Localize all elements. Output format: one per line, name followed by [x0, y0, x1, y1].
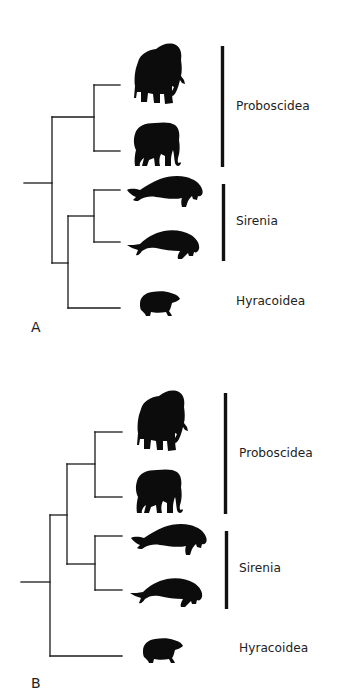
- tree-a: [24, 85, 120, 308]
- clade-label-sirenia: Sirenia: [236, 214, 278, 228]
- elephant-silhouette-icon: [134, 122, 181, 166]
- clade-label-proboscidea: Proboscidea: [236, 99, 310, 113]
- dugong-silhouette-icon: [127, 230, 199, 259]
- elephant-silhouette-icon: [136, 469, 183, 513]
- taxa-b: [130, 391, 207, 663]
- tree-b: [21, 432, 122, 656]
- taxa-a: [127, 44, 203, 316]
- panel-label-a: A: [31, 319, 41, 335]
- mammoth-silhouette-icon: [134, 44, 185, 104]
- hyrax-silhouette-icon: [140, 291, 180, 316]
- clade-label-sirenia: Sirenia: [239, 561, 281, 575]
- panel-a: Proboscidea Sirenia Hyracoidea A: [24, 44, 310, 335]
- clade-label-proboscidea: Proboscidea: [239, 446, 313, 460]
- panel-b: Proboscidea Sirenia Hyracoidea B: [21, 391, 313, 691]
- panel-label-b: B: [31, 675, 41, 691]
- manatee-silhouette-icon: [127, 176, 203, 207]
- clade-label-hyracoidea: Hyracoidea: [236, 294, 305, 308]
- phylogeny-figure: Proboscidea Sirenia Hyracoidea A: [0, 0, 341, 693]
- mammoth-silhouette-icon: [137, 391, 188, 451]
- manatee-silhouette-icon: [131, 524, 207, 555]
- dugong-silhouette-icon: [130, 578, 202, 607]
- hyrax-silhouette-icon: [143, 638, 183, 663]
- clade-label-hyracoidea: Hyracoidea: [239, 641, 308, 655]
